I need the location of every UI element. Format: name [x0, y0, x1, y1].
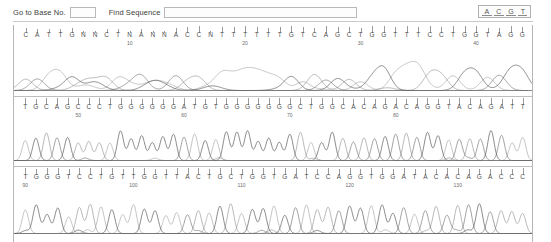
base-letter: G: [508, 32, 513, 39]
base-letter: T: [121, 174, 125, 181]
base-letter: T: [243, 32, 247, 39]
base-letter: C: [499, 174, 504, 181]
base-letter: N: [81, 32, 86, 39]
base-letter: A: [182, 104, 186, 111]
base-letter: T: [272, 174, 276, 181]
base-letter: A: [139, 32, 143, 39]
base-letter: A: [499, 104, 503, 111]
base-letter: T: [164, 174, 168, 181]
base-letter: A: [324, 32, 328, 39]
base-numbers-3: 90100110120130: [14, 183, 532, 191]
base-letter: T: [369, 174, 373, 181]
base-letter: G: [335, 32, 340, 39]
base-letter: T: [58, 32, 62, 39]
toolbar: Go to Base No. Find Sequence: [13, 3, 533, 22]
base-letter: G: [129, 104, 134, 111]
base-letter: C: [455, 174, 460, 181]
guanine-button[interactable]: G: [506, 8, 516, 16]
base-letter: C: [404, 104, 409, 111]
base-letter: T: [240, 174, 244, 181]
trace-channel-t: [14, 61, 532, 90]
base-letter: G: [436, 104, 441, 111]
adenine-button[interactable]: A: [482, 8, 492, 16]
base-letter: G: [474, 32, 479, 39]
base-letter: G: [139, 104, 144, 111]
base-letter: G: [44, 174, 49, 181]
base-letter: C: [196, 174, 201, 181]
nucleotide-filter-group: A C G T: [478, 5, 531, 18]
base-letter: T: [309, 104, 313, 111]
base-letter: T: [214, 104, 218, 111]
base-call-strip-2: TGCAGCCCTGGGGGGATGTGGGGGGGCTGGCACAGACAGG…: [14, 97, 532, 121]
base-letter: T: [278, 32, 282, 39]
base-position-label: 50: [75, 113, 81, 118]
base-letter: G: [203, 104, 208, 111]
base-letter: C: [76, 104, 81, 111]
base-letter: T: [304, 174, 308, 181]
base-letter: G: [425, 104, 430, 111]
trace-row-1[interactable]: CATTGNNCTNANNACCNTTTTTTGTCAGCTGGTTTCCTGG…: [13, 25, 533, 97]
base-letter: G: [224, 104, 229, 111]
base-letter: G: [234, 104, 239, 111]
base-position-label: 60: [181, 113, 187, 118]
base-letter: C: [315, 174, 320, 181]
goto-base-input[interactable]: [70, 7, 96, 18]
base-letter: G: [160, 104, 165, 111]
base-letter: T: [23, 104, 27, 111]
base-letter: T: [405, 32, 409, 39]
base-letter: G: [383, 104, 388, 111]
base-letter: C: [520, 174, 525, 181]
base-letter: G: [142, 174, 147, 181]
base-letter: C: [88, 174, 93, 181]
base-position-label: 120: [345, 183, 353, 188]
base-letter: G: [289, 32, 294, 39]
base-letter: G: [55, 174, 60, 181]
base-position-label: 130: [454, 183, 462, 188]
base-letter: A: [445, 174, 449, 181]
chromatogram-trace-1: [14, 51, 532, 95]
base-letter: C: [86, 104, 91, 111]
base-letter: G: [33, 104, 38, 111]
trace-channel-c: [14, 70, 532, 91]
base-letter: C: [104, 32, 109, 39]
base-letter: T: [266, 32, 270, 39]
base-letter: T: [175, 174, 179, 181]
base-letter: G: [462, 32, 467, 39]
base-letter: T: [47, 32, 51, 39]
base-letter: T: [99, 174, 103, 181]
goto-base-label: Go to Base No.: [13, 9, 66, 17]
base-letter: T: [23, 174, 27, 181]
base-numbers-2: 50607080: [14, 113, 532, 121]
base-letter: C: [428, 32, 433, 39]
chromatogram-viewer: Go to Base No. Find Sequence A C G T CAT…: [0, 0, 551, 242]
find-sequence-input[interactable]: [164, 7, 357, 18]
base-position-label: 30: [358, 41, 364, 46]
trace-row-2[interactable]: TGCAGCCCTGGGGGGATGTGGGGGGGCTGGCACAGACAGG…: [13, 97, 533, 167]
base-letter: T: [416, 32, 420, 39]
base-letter: C: [467, 104, 472, 111]
base-position-label: 80: [393, 113, 399, 118]
base-letter: G: [171, 104, 176, 111]
base-letter: A: [423, 174, 427, 181]
base-letter: A: [55, 104, 59, 111]
base-letter: T: [220, 32, 224, 39]
base-letter: G: [477, 174, 482, 181]
base-letter: T: [359, 32, 363, 39]
base-letter: C: [509, 174, 514, 181]
base-position-label: 70: [287, 113, 293, 118]
thymine-button[interactable]: T: [518, 8, 527, 16]
base-letter: T: [108, 104, 112, 111]
cytosine-button[interactable]: C: [494, 8, 504, 16]
base-letter: N: [127, 32, 132, 39]
base-letter: G: [319, 104, 324, 111]
base-letter: T: [447, 104, 451, 111]
base-letter: A: [372, 104, 376, 111]
base-letter: A: [466, 174, 470, 181]
base-letter: G: [488, 104, 493, 111]
base-letter: A: [457, 104, 461, 111]
trace-row-3[interactable]: TGGGTCCTGTTGGTTACTGCTGGTGATCCAGGTGGATACA…: [13, 167, 533, 242]
base-letter: G: [358, 174, 363, 181]
base-letter: T: [301, 32, 305, 39]
base-letter: C: [326, 174, 331, 181]
base-letter: G: [150, 104, 155, 111]
